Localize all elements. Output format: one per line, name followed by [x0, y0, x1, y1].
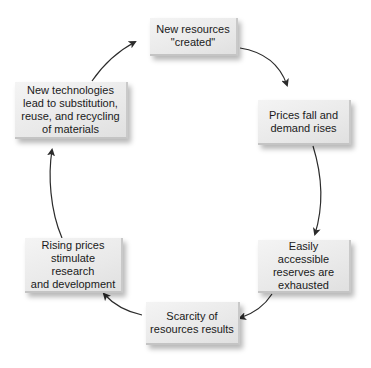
arrow-n3-to-n4 [240, 294, 272, 318]
node-text-line: demand rises [269, 122, 338, 135]
arrow-n2-to-n3 [313, 146, 321, 234]
node-text-line: Prices fall and [269, 109, 338, 122]
node-text-line: exhausted [262, 279, 345, 292]
node-text-line: of materials [21, 123, 119, 136]
node-reserves-exhausted: Easily accessible reserves are exhausted [258, 240, 351, 293]
arrow-n6-to-n1 [92, 42, 135, 81]
arrow-n5-to-n6 [50, 150, 62, 238]
node-text-line: reuse, and recycling [21, 110, 119, 123]
node-text-line: lead to substitution, [21, 97, 119, 110]
node-text-line: Easily accessible [262, 240, 345, 266]
node-new-resources-created: New resources "created" [150, 18, 238, 56]
node-scarcity-of-resources: Scarcity of resources results [146, 302, 240, 345]
node-rising-prices-stimulate-rd: Rising prices stimulate research and dev… [25, 238, 123, 293]
node-text-line: reserves are [262, 266, 345, 279]
node-text-line: New resources [156, 23, 229, 36]
node-prices-fall-demand-rises: Prices fall and demand rises [258, 100, 351, 145]
node-new-technologies: New technologies lead to substitution, r… [15, 82, 128, 139]
node-text-line: New technologies [21, 84, 119, 97]
node-text-line: "created" [156, 36, 229, 49]
node-text-line: Rising prices [29, 239, 117, 252]
arrow-n1-to-n2 [240, 48, 287, 85]
arrow-n4-to-n5 [104, 294, 142, 315]
resource-cycle-diagram: New resources "created" Prices fall and … [0, 0, 371, 368]
node-text-line: resources results [150, 323, 234, 336]
node-text-line: and development [29, 278, 117, 291]
node-text-line: stimulate research [29, 252, 117, 278]
node-text-line: Scarcity of [150, 310, 234, 323]
